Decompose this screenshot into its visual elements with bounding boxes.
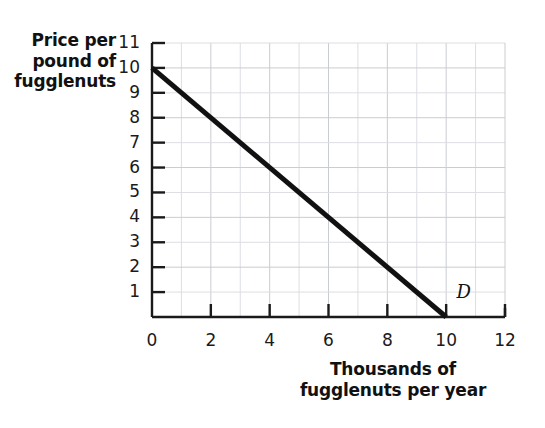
curve-annotations: D xyxy=(455,281,471,302)
gridlines xyxy=(152,43,505,317)
demand-curve-figure: Price per pound of fugglenuts Thousands … xyxy=(0,0,545,428)
plot-area: D xyxy=(0,0,545,428)
curve-label-D: D xyxy=(455,281,471,302)
